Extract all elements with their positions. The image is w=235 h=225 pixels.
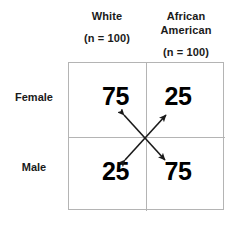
row-header-female: Female (2, 91, 66, 104)
cell-female-african-american: 25 (147, 83, 225, 109)
table-grid: 75 25 25 75 (68, 62, 224, 210)
row-header-male: Male (2, 161, 66, 174)
cell-male-white: 25 (69, 158, 146, 184)
column-header-african-american-n: (n = 100) (146, 45, 226, 59)
column-header-white-label: White (68, 9, 146, 23)
column-header-african-american-label-line2: American (146, 23, 226, 37)
column-header-white: White (n = 100) (68, 9, 146, 45)
contingency-table-figure: White (n = 100) African American (n = 10… (0, 0, 235, 225)
column-header-african-american-label-line1: African (146, 9, 226, 23)
horizontal-divider (69, 137, 225, 138)
column-header-white-n: (n = 100) (68, 31, 146, 45)
column-header-african-american: African American (n = 100) (146, 9, 226, 59)
cell-female-white: 75 (69, 83, 146, 109)
cell-male-african-american: 75 (147, 158, 225, 184)
